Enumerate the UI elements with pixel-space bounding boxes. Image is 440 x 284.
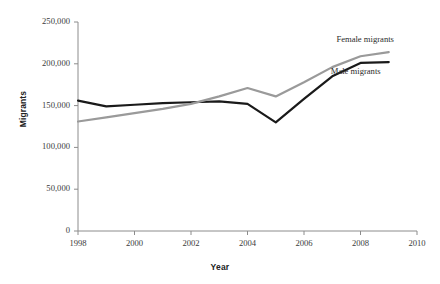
series-line-female-migrants (78, 52, 389, 121)
y-tick-label: 150,000 (6, 100, 70, 110)
x-tick-label: 2002 (171, 238, 211, 248)
x-tick-label: 2000 (115, 238, 155, 248)
y-tick-label: 0 (6, 225, 70, 235)
x-tick-label: 2006 (284, 238, 324, 248)
line-chart: Migrants Year 050,000100,000150,000200,0… (0, 0, 440, 284)
x-tick-label: 2008 (341, 238, 381, 248)
series-label-female-migrants: Female migrants (336, 34, 394, 44)
series-paths (78, 52, 389, 122)
y-tick-label: 50,000 (6, 183, 70, 193)
x-tick-label: 1998 (58, 238, 98, 248)
axis-group (78, 22, 417, 231)
y-tick-label: 200,000 (6, 58, 70, 68)
y-tick-label: 250,000 (6, 16, 70, 26)
y-tick-marks (74, 22, 78, 231)
series-label-male-migrants: Male migrants (331, 66, 381, 76)
x-tick-marks (78, 231, 417, 235)
x-tick-label: 2004 (228, 238, 268, 248)
x-axis-title: Year (0, 262, 440, 272)
x-tick-label: 2010 (397, 238, 437, 248)
y-tick-label: 100,000 (6, 141, 70, 151)
